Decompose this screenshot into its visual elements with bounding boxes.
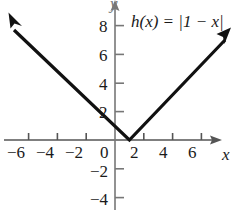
x-tick-label-0: −6 [7, 144, 25, 161]
y-tick-label-1: 6 [99, 47, 108, 64]
x-axis-label: x [222, 146, 230, 163]
function-equation-text: h(x) = |1 − x| [131, 12, 224, 31]
function-graph-figure: h(x) = |1 − x| y x −6−4−20246 8642−2−4 [0, 0, 239, 214]
x-tick-label-1: −4 [36, 144, 54, 161]
plot-canvas [0, 0, 239, 214]
y-tick-label-3: 2 [99, 104, 108, 121]
y-axis-label: y [110, 0, 118, 12]
x-tick-label-2: −2 [65, 144, 83, 161]
y-tick-label-5: −4 [90, 191, 108, 208]
x-tick-label-5: 4 [159, 144, 168, 161]
x-tick-label-3: 0 [100, 144, 109, 161]
x-tick-label-6: 6 [188, 144, 197, 161]
y-tick-label-2: 4 [99, 76, 108, 93]
y-tick-label-0: 8 [99, 18, 108, 35]
curve-left-arrowhead [9, 13, 23, 29]
x-tick-label-4: 2 [130, 144, 139, 161]
function-equation-label: h(x) = |1 − x| [131, 12, 224, 32]
y-tick-marks [115, 26, 124, 198]
y-tick-label-4: −2 [90, 163, 108, 180]
